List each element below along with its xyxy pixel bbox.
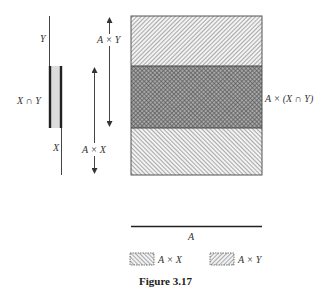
legend-item-a-times-y: A × Y	[210, 253, 263, 265]
legend-swatch-forward-slash	[210, 253, 234, 265]
label-a-times-x: A × X	[81, 144, 107, 155]
label-x: X	[52, 142, 60, 153]
label-a: A	[187, 231, 195, 242]
band-a-times-y	[131, 16, 262, 66]
intersection-segment	[50, 66, 61, 128]
legend-item-a-times-x: A × X	[130, 253, 183, 265]
figure-diagram: Y X ∩ Y X A × Y A × X A × (X ∩ Y) A A × …	[0, 0, 334, 298]
band-a-times-intersection	[131, 66, 262, 128]
legend-label: A × Y	[237, 254, 263, 265]
figure-caption: Figure 3.17	[139, 275, 192, 287]
legend-label: A × X	[157, 254, 183, 265]
label-y: Y	[40, 33, 47, 44]
label-a-times-y: A × Y	[96, 34, 122, 45]
band-a-times-x	[131, 128, 262, 175]
label-a-times-intersection: A × (X ∩ Y)	[264, 93, 314, 105]
label-x-intersect-y: X ∩ Y	[16, 95, 42, 106]
legend-swatch-backslash	[130, 253, 154, 265]
